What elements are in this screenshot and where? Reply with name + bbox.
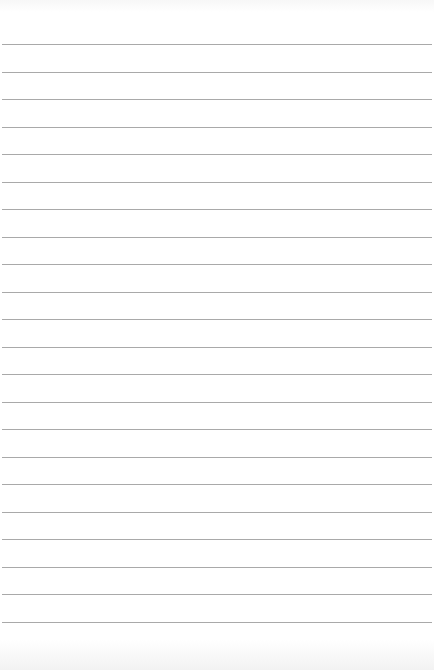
ruled-line: [2, 319, 432, 320]
ruled-line: [2, 622, 432, 623]
ruled-line: [2, 512, 432, 513]
ruled-line: [2, 99, 432, 100]
ruled-line: [2, 264, 432, 265]
ruled-line: [2, 44, 432, 45]
ruled-line: [2, 539, 432, 540]
ruled-line: [2, 237, 432, 238]
ruled-line: [2, 402, 432, 403]
ruled-line: [2, 484, 432, 485]
ruled-line: [2, 154, 432, 155]
ruled-line: [2, 374, 432, 375]
ruled-line: [2, 72, 432, 73]
ruled-line: [2, 457, 432, 458]
ruled-line: [2, 292, 432, 293]
ruled-line: [2, 429, 432, 430]
ruled-line: [2, 182, 432, 183]
ruled-line: [2, 567, 432, 568]
ruled-line: [2, 209, 432, 210]
ruled-line: [2, 127, 432, 128]
lined-paper-sheet: [0, 0, 434, 670]
ruled-line: [2, 347, 432, 348]
ruled-line: [2, 594, 432, 595]
